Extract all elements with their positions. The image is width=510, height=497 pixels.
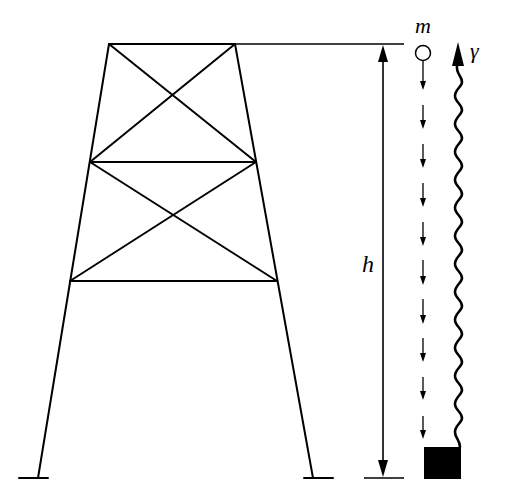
- mass-circle-icon: [416, 46, 431, 61]
- absorber-block: [424, 447, 461, 479]
- height-arrow-up-icon: [378, 45, 388, 62]
- mass-label: m: [415, 13, 431, 38]
- falling-arrows: [420, 61, 426, 439]
- height-label: h: [362, 251, 374, 277]
- height-arrow-down-icon: [378, 460, 388, 477]
- gamma-arrow-up-icon: [452, 42, 464, 66]
- upper-brace-b: [90, 44, 235, 162]
- lower-brace-a: [90, 162, 277, 281]
- tower-diagram: h m γ: [0, 0, 510, 497]
- gamma-ray-wave: [455, 66, 462, 447]
- tower: [19, 44, 333, 478]
- upper-brace-a: [109, 44, 256, 162]
- lower-brace-b: [70, 162, 256, 281]
- tower-left-leg: [38, 44, 109, 478]
- gamma-label: γ: [470, 38, 480, 63]
- height-dimension: [235, 44, 404, 478]
